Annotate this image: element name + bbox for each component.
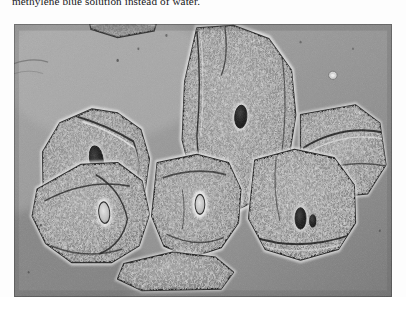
film-grain-overlay [14, 24, 392, 297]
cheek-cell-micrograph [14, 24, 392, 297]
page-bottom-whitespace [0, 297, 406, 311]
micrograph-canvas [14, 24, 392, 297]
caption-text-line: methylene blue solution instead of water… [12, 0, 312, 11]
caption-text: methylene blue solution instead of water… [12, 0, 312, 8]
